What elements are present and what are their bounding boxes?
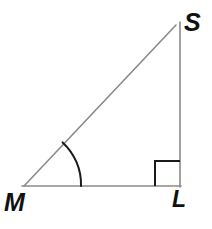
- angle-arc-marker-M: [63, 142, 81, 186]
- vertex-label-l: L: [172, 188, 186, 211]
- vertex-label-s: S: [184, 10, 201, 35]
- geometry-figure: S M L: [0, 0, 212, 229]
- right-angle-marker-L: [155, 161, 180, 186]
- vertex-label-m: M: [4, 190, 25, 215]
- side-MS-hypotenuse: [24, 25, 176, 186]
